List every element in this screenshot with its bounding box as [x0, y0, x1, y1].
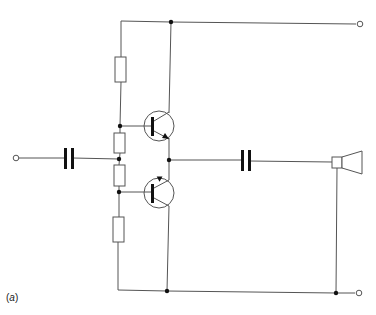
- junction-dot: [118, 124, 122, 128]
- label-paren-close: ): [15, 292, 18, 303]
- lower-vertical-wire: [167, 206, 169, 291]
- junction-dot: [117, 190, 121, 194]
- supply-terminal-top: [357, 21, 363, 27]
- resistor-r3: [114, 165, 125, 186]
- resistor-r1: [115, 57, 126, 82]
- circuit-diagram: [0, 0, 376, 315]
- junction-dot: [334, 291, 338, 295]
- input-capacitor-plate-2: [71, 148, 74, 169]
- junction-dot: [169, 20, 173, 24]
- bias-wire-1: [120, 82, 121, 126]
- input-terminal: [13, 155, 19, 161]
- output-capacitor-plate-1: [241, 150, 244, 171]
- figure-label: (a): [6, 292, 18, 303]
- top-rail-wire: [121, 21, 356, 57]
- right-vertical-wire: [169, 22, 171, 113]
- output-wire-2: [250, 161, 332, 162]
- output-capacitor-plate-2: [248, 150, 251, 171]
- bottom-rail-wire: [118, 242, 355, 293]
- supply-terminal-bottom: [356, 290, 362, 296]
- input-capacitor-plate-1: [64, 148, 67, 169]
- junction-dot: [165, 289, 169, 293]
- speaker-return-wire: [336, 168, 337, 293]
- junction-dot: [167, 158, 171, 162]
- input-wire-2: [73, 158, 119, 159]
- junction-dot: [117, 157, 121, 161]
- resistor-r4: [113, 217, 124, 242]
- resistor-r2: [114, 133, 125, 153]
